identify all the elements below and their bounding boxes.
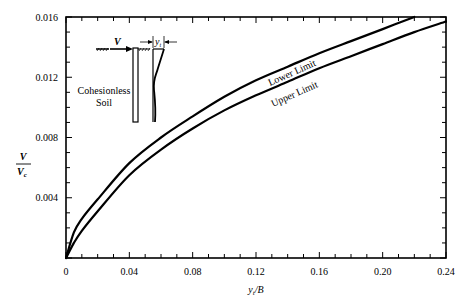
chart: 00.040.080.120.160.200.240.0040.0080.012… [0,0,469,300]
x-tick-label: 0.08 [184,266,202,277]
inset-force-label: V [114,36,122,47]
deflection-curve [154,49,164,122]
x-tick-label: 0.04 [121,266,139,277]
dim-arrowhead-right [164,40,169,44]
x-tick-label: 0.20 [374,266,392,277]
y-tick-label: 0.012 [36,72,59,83]
force-arrow-head [126,46,133,52]
inset-deflection-label: yt [154,36,161,48]
y-tick-label: 0.004 [36,192,59,203]
x-tick-label: 0.12 [247,266,265,277]
x-tick-label: 0.24 [437,266,455,277]
soil-label-line1: Cohesionless [78,85,131,96]
x-tick-label: 0 [64,266,69,277]
dim-arrowhead-left [148,40,153,44]
y-axis-label-numerator: V [20,151,28,162]
inset-pile-diagram: Vyt [96,36,177,122]
y-tick-label: 0.008 [36,132,59,143]
lower-limit-curve [66,17,414,258]
pile [133,48,138,122]
plot-frame [66,17,446,258]
y-axis-label: VVc [16,151,31,179]
y-tick-label: 0.016 [36,12,59,23]
soil-label-line2: Soil [96,97,112,108]
x-axis-label: yt/B [247,284,263,297]
upper-limit-curve [66,22,446,259]
x-tick-label: 0.16 [311,266,329,277]
y-axis-label-denominator: Vc [17,166,27,179]
